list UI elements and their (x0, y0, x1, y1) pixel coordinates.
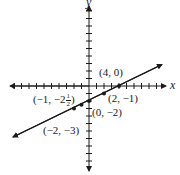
point-label-2-neg1: (2, −1) (108, 93, 138, 104)
point-label-0-neg2: (0, −2) (92, 107, 122, 118)
point-label-main: (−1, −2 (33, 93, 66, 105)
point-label-4-0: (4, 0) (99, 67, 123, 78)
x-axis-label: x (170, 79, 175, 91)
y-axis-label: y (86, 0, 91, 8)
data-point (87, 99, 91, 103)
point-label-neg2-neg3: (−2, −3) (43, 125, 79, 136)
data-point (80, 103, 84, 107)
data-point (102, 92, 106, 96)
data-point (117, 84, 121, 88)
point-label-neg1-neg2half: (−1, −212) (33, 93, 75, 108)
coordinate-plane (0, 0, 180, 175)
